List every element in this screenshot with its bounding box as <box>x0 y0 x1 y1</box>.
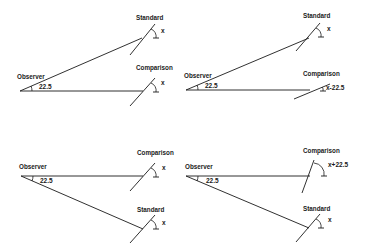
observer-angle-label: 22.5 <box>206 177 219 184</box>
line-of-sight-standard <box>186 176 309 228</box>
standard-segment <box>296 214 320 242</box>
comparison-angle-arc <box>322 87 323 91</box>
standard-label: Standard <box>303 12 330 19</box>
observer-angle-arc <box>31 86 32 91</box>
standard-angle-arc <box>151 29 156 38</box>
observer-label: Observer <box>185 163 213 170</box>
standard-angle-arc <box>151 220 156 229</box>
standard-angle-arc <box>316 219 321 228</box>
observer-angle-label: 22.5 <box>40 177 53 184</box>
standard-segment <box>130 24 155 55</box>
observer-label: Observer <box>19 163 47 170</box>
comparison-label: Comparison <box>137 149 174 157</box>
standard-label: Standard <box>136 14 163 21</box>
comparison-label: Comparison <box>136 64 173 72</box>
standard-angle-label: x <box>328 216 332 223</box>
observer-label: Observer <box>17 73 45 80</box>
comparison-label: Comparison <box>303 147 340 155</box>
observer-angle-label: 22.5 <box>205 82 218 89</box>
comparison-segment <box>130 78 155 106</box>
comparison-segment <box>302 160 314 193</box>
observer-angle-label: 22.5 <box>39 83 52 90</box>
observer-angle-arc <box>32 176 33 181</box>
comparison-segment <box>294 84 330 99</box>
comparison-angle-arc <box>314 163 324 176</box>
panel-top-right: Observer 22.5 Standard x Comparison x-22… <box>184 12 345 99</box>
comparison-label: Comparison <box>303 70 340 78</box>
comparison-angle-arc <box>151 168 156 177</box>
standard-angle-label: x <box>162 219 166 226</box>
standard-segment <box>130 215 155 243</box>
standard-angle-arc <box>316 28 321 37</box>
standard-segment <box>296 23 320 51</box>
panel-bottom-right: Observer 22.5 Comparison x+22.5 Standard… <box>185 147 348 242</box>
observer-angle-arc <box>197 85 198 90</box>
panel-bottom-left: Observer 22.5 Comparison x Standard x <box>19 149 174 243</box>
standard-angle-label: x <box>327 25 331 32</box>
panel-top-left: Observer 22.5 Standard x Comparison x <box>17 14 173 106</box>
standard-label: Standard <box>137 206 164 213</box>
comparison-segment <box>130 163 155 191</box>
comparison-angle-label: x <box>161 79 165 86</box>
observer-angle-arc <box>197 176 198 181</box>
observer-label: Observer <box>184 72 212 79</box>
comparison-angle-arc <box>151 83 156 92</box>
comparison-angle-label: x+22.5 <box>328 161 348 168</box>
standard-angle-label: x <box>161 27 165 34</box>
comparison-angle-label: x <box>162 164 166 171</box>
standard-label: Standard <box>303 205 330 212</box>
diagram-canvas: Observer 22.5 Standard x Comparison x Ob… <box>0 0 367 251</box>
comparison-angle-label: x-22.5 <box>326 84 345 91</box>
